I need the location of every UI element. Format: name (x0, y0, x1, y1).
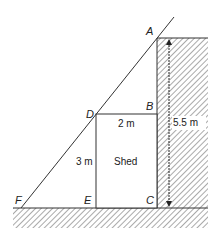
point-label-a: A (145, 25, 153, 37)
point-label-d: D (86, 108, 94, 120)
ladder-shed-diagram: A B C D E F 2 m 3 m Shed 5.5 m (0, 0, 218, 241)
point-label-b: B (146, 100, 153, 112)
wall-height-label: 5.5 m (173, 117, 198, 128)
shed-label: Shed (114, 156, 137, 167)
point-label-e: E (84, 194, 92, 206)
point-label-f: F (15, 194, 23, 206)
point-label-c: C (146, 194, 154, 206)
ground (13, 208, 208, 228)
shed-height-label: 3 m (76, 156, 93, 167)
shed-width-label: 2 m (118, 118, 135, 129)
